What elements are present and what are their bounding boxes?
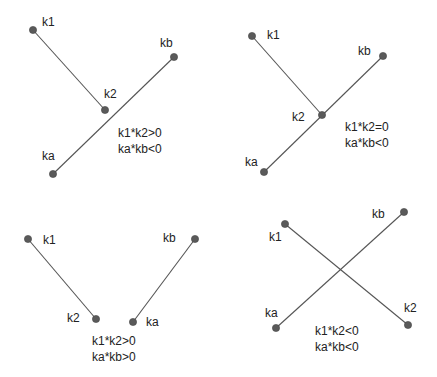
point-ka [260,168,267,175]
point-kb [379,52,386,59]
condition-text: k1*k2=0 [345,120,389,134]
point-kb [191,235,198,242]
panel-touching-endpoint: k1k2kbkak1*k2=0ka*kb<0 [245,28,389,176]
point-kb [400,208,407,215]
point-label-k1: k1 [269,230,282,244]
point-k2 [404,321,411,328]
panel-no-intersection-k-same-side: k1k2kbkak1*k2>0ka*kb<0 [29,15,177,178]
condition-text: k1*k2>0 [118,126,162,140]
point-k1 [281,220,288,227]
segment-intersection-diagram: k1k2kbkak1*k2>0ka*kb<0k1k2kbkak1*k2=0ka*… [0,0,437,377]
point-label-ka: ka [146,315,159,329]
point-label-k2: k2 [67,311,80,325]
point-label-kb: kb [372,207,385,221]
point-label-ka: ka [245,155,258,169]
condition-text: ka*kb<0 [315,340,359,354]
point-label-ka: ka [42,149,55,163]
condition-text: ka*kb<0 [345,136,389,150]
point-kb [170,53,177,60]
point-label-k2: k2 [104,87,117,101]
segment-ka-kb [276,212,404,328]
condition-text: k1*k2>0 [92,334,136,348]
point-ka [129,318,136,325]
condition-text: ka*kb>0 [92,350,136,364]
segment-ka-kb [53,57,174,174]
segment-k1-k2 [252,36,322,115]
point-label-kb: kb [163,231,176,245]
point-k1 [29,26,36,33]
point-label-ka: ka [265,306,278,320]
point-ka [49,170,56,177]
segment-k1-k2 [28,239,96,319]
point-label-k1: k1 [267,28,280,42]
point-label-k1: k1 [42,15,55,29]
point-ka [272,324,279,331]
condition-text: k1*k2<0 [315,324,359,338]
point-label-k1: k1 [43,233,56,247]
point-label-k2: k2 [404,301,417,315]
point-k2 [318,111,325,118]
segment-ka-kb [133,239,195,322]
segment-k1-k2 [33,30,105,110]
point-label-k2: k2 [292,110,305,124]
condition-text: ka*kb<0 [118,142,162,156]
point-k2 [92,315,99,322]
point-k2 [101,106,108,113]
point-label-kb: kb [160,36,173,50]
segment-k1-k2 [285,224,408,325]
panel-intersecting: k1kbkak2k1*k2<0ka*kb<0 [265,207,417,354]
panel-no-intersection-both-same-side: k1k2kbkak1*k2>0ka*kb>0 [24,231,198,364]
point-k1 [248,32,255,39]
point-label-kb: kb [358,44,371,58]
point-k1 [24,235,31,242]
